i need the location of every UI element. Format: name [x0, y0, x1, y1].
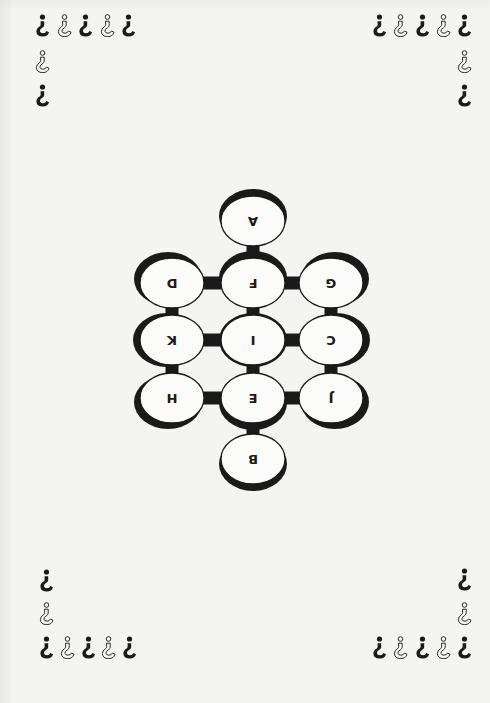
node-label: H: [167, 391, 178, 406]
node-label: B: [248, 452, 258, 467]
node-label: C: [326, 333, 336, 348]
node-C: C: [299, 313, 370, 367]
node-label: K: [166, 333, 177, 348]
node-H: H: [134, 373, 204, 429]
node-D: D: [134, 252, 204, 308]
node-K: K: [133, 313, 204, 367]
node-label: D: [166, 276, 177, 291]
node-B: B: [219, 434, 287, 491]
node-A: A: [219, 189, 287, 246]
node-label: J: [329, 391, 335, 406]
node-grid-diagram: ADFGKICHEJB: [0, 0, 490, 703]
node-G: G: [299, 252, 369, 308]
node-label: G: [326, 276, 337, 291]
node-label: E: [249, 391, 258, 406]
node-label: F: [249, 276, 258, 291]
node-I: I: [219, 313, 287, 367]
node-label: A: [248, 214, 258, 229]
node-J: J: [299, 373, 369, 429]
nodes: ADFGKICHEJB: [133, 189, 370, 491]
node-F: F: [219, 251, 287, 308]
node-E: E: [219, 373, 287, 430]
node-label: I: [251, 333, 256, 348]
